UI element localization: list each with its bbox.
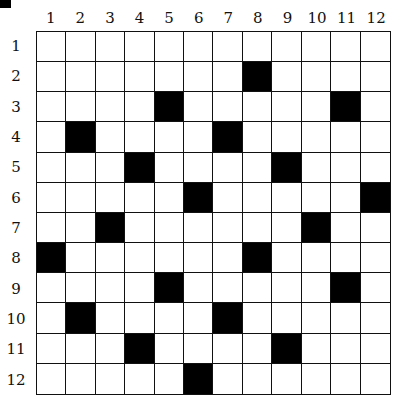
grid-cell[interactable]: [125, 32, 154, 62]
grid-cell[interactable]: [125, 122, 154, 152]
grid-cell[interactable]: [96, 122, 125, 152]
grid-cell[interactable]: [37, 364, 66, 394]
grid-cell[interactable]: [96, 32, 125, 62]
grid-cell[interactable]: [37, 303, 66, 333]
grid-cell[interactable]: [243, 183, 272, 213]
grid-cell[interactable]: [213, 243, 242, 273]
grid-cell[interactable]: [331, 334, 360, 364]
grid-cell[interactable]: [125, 92, 154, 122]
grid-cell[interactable]: [243, 273, 272, 303]
grid-cell[interactable]: [125, 213, 154, 243]
grid-cell-filled[interactable]: [213, 122, 242, 152]
grid-cell[interactable]: [302, 122, 331, 152]
grid-cell[interactable]: [66, 183, 95, 213]
grid-cell[interactable]: [96, 273, 125, 303]
grid-cell[interactable]: [37, 183, 66, 213]
grid-cell[interactable]: [96, 303, 125, 333]
grid-cell[interactable]: [37, 213, 66, 243]
grid-cell[interactable]: [155, 153, 184, 183]
grid-cell-filled[interactable]: [272, 153, 301, 183]
grid-cell[interactable]: [37, 122, 66, 152]
grid-cell[interactable]: [302, 62, 331, 92]
grid-cell[interactable]: [184, 213, 213, 243]
grid-cell[interactable]: [243, 334, 272, 364]
grid-cell[interactable]: [302, 303, 331, 333]
grid-cell-filled[interactable]: [66, 303, 95, 333]
grid-cell[interactable]: [66, 243, 95, 273]
grid-cell-filled[interactable]: [331, 273, 360, 303]
grid-cell-filled[interactable]: [96, 213, 125, 243]
grid-cell[interactable]: [272, 273, 301, 303]
grid-cell[interactable]: [361, 334, 390, 364]
grid-cell[interactable]: [361, 32, 390, 62]
grid-cell[interactable]: [96, 62, 125, 92]
grid-cell[interactable]: [272, 183, 301, 213]
grid-cell[interactable]: [66, 334, 95, 364]
grid-cell[interactable]: [37, 92, 66, 122]
grid-cell[interactable]: [272, 243, 301, 273]
grid-cell[interactable]: [361, 213, 390, 243]
grid-cell[interactable]: [361, 62, 390, 92]
grid-cell[interactable]: [243, 364, 272, 394]
grid-cell[interactable]: [125, 243, 154, 273]
grid-cell[interactable]: [272, 32, 301, 62]
grid-cell[interactable]: [272, 213, 301, 243]
grid-cell-filled[interactable]: [302, 213, 331, 243]
grid-cell[interactable]: [361, 303, 390, 333]
grid-cell-filled[interactable]: [66, 122, 95, 152]
grid-cell[interactable]: [361, 364, 390, 394]
grid-cell[interactable]: [155, 243, 184, 273]
grid-cell[interactable]: [184, 32, 213, 62]
grid-cell[interactable]: [331, 213, 360, 243]
grid-cell[interactable]: [213, 273, 242, 303]
grid-cell[interactable]: [302, 243, 331, 273]
grid-cell-filled[interactable]: [243, 62, 272, 92]
grid-cell[interactable]: [243, 32, 272, 62]
grid-cell[interactable]: [331, 243, 360, 273]
grid-cell[interactable]: [37, 334, 66, 364]
grid-cell[interactable]: [125, 303, 154, 333]
grid-cell[interactable]: [331, 153, 360, 183]
grid-cell[interactable]: [361, 92, 390, 122]
grid-cell[interactable]: [66, 62, 95, 92]
grid-cell[interactable]: [331, 364, 360, 394]
grid-cell[interactable]: [155, 183, 184, 213]
grid-cell[interactable]: [302, 334, 331, 364]
grid-cell[interactable]: [184, 122, 213, 152]
grid-cell[interactable]: [184, 153, 213, 183]
grid-cell[interactable]: [66, 153, 95, 183]
grid-cell[interactable]: [125, 183, 154, 213]
grid-cell-filled[interactable]: [184, 364, 213, 394]
grid-cell[interactable]: [184, 243, 213, 273]
grid-cell[interactable]: [361, 273, 390, 303]
grid-cell[interactable]: [66, 32, 95, 62]
grid-cell[interactable]: [331, 62, 360, 92]
grid-cell[interactable]: [155, 334, 184, 364]
grid-cell[interactable]: [155, 62, 184, 92]
grid-cell[interactable]: [184, 303, 213, 333]
grid-cell[interactable]: [213, 334, 242, 364]
grid-cell[interactable]: [361, 243, 390, 273]
grid-cell[interactable]: [37, 153, 66, 183]
grid-cell[interactable]: [302, 153, 331, 183]
grid-cell[interactable]: [96, 364, 125, 394]
grid-cell[interactable]: [125, 364, 154, 394]
grid-cell[interactable]: [155, 122, 184, 152]
grid-cell[interactable]: [184, 273, 213, 303]
grid-cell[interactable]: [66, 364, 95, 394]
grid-cell[interactable]: [361, 122, 390, 152]
grid-cell[interactable]: [155, 303, 184, 333]
grid-cell[interactable]: [213, 213, 242, 243]
grid-cell[interactable]: [331, 32, 360, 62]
grid-cell[interactable]: [155, 364, 184, 394]
grid-cell-filled[interactable]: [272, 334, 301, 364]
grid-cell[interactable]: [37, 32, 66, 62]
grid-cell[interactable]: [302, 273, 331, 303]
grid-cell[interactable]: [96, 334, 125, 364]
grid-cell-filled[interactable]: [125, 334, 154, 364]
grid-cell[interactable]: [213, 92, 242, 122]
grid-cell[interactable]: [213, 364, 242, 394]
grid-cell-filled[interactable]: [155, 273, 184, 303]
grid-cell[interactable]: [184, 92, 213, 122]
grid-cell[interactable]: [37, 273, 66, 303]
